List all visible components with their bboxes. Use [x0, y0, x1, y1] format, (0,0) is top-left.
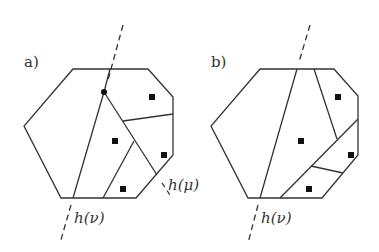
label-h-mu: h(μ)	[168, 176, 199, 194]
solid-line-h-nu-b	[260, 69, 297, 198]
panel-label-a: a)	[24, 53, 39, 71]
site-square-b2	[298, 138, 304, 144]
cell-line-1-a	[123, 114, 173, 121]
cell-line-2-a	[103, 141, 134, 198]
cell-line-2-b	[280, 119, 358, 198]
panel-label-b: b)	[211, 53, 226, 71]
dashed-line-h-nu-top-a	[108, 25, 123, 80]
cell-line-1-b	[314, 69, 337, 139]
site-square-a3	[161, 152, 167, 158]
solid-line-top-a	[104, 69, 110, 92]
diagram-canvas: a) h(μ) h(ν) b) h(ν)	[0, 0, 379, 252]
dashed-line-h-nu-bottom-a	[60, 205, 71, 243]
site-square-a4	[120, 186, 126, 192]
site-square-b3	[348, 152, 354, 158]
cell-line-3-b	[311, 166, 343, 173]
vertex-dot-a	[101, 89, 107, 95]
octagon-a	[24, 69, 173, 198]
site-square-b4	[306, 186, 312, 192]
diagonal-line-a	[104, 92, 157, 175]
octagon-b	[211, 69, 358, 198]
label-h-nu-b: h(ν)	[261, 209, 292, 227]
dashed-line-h-nu-bottom-b	[248, 205, 258, 243]
dashed-line-h-nu-top-b	[299, 25, 310, 62]
site-square-a2	[112, 138, 118, 144]
label-h-nu-a: h(ν)	[74, 209, 105, 227]
site-square-a1	[149, 94, 155, 100]
site-square-b1	[335, 94, 341, 100]
solid-line-h-nu-a	[73, 92, 104, 198]
